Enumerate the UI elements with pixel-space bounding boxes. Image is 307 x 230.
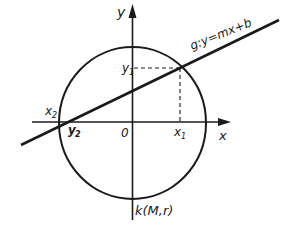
origin-label: 0 [121, 126, 129, 140]
y-axis-label: y [116, 4, 126, 20]
circle-line-diagram: y x 0 g:y=mx+b k(M,r) y 1 x 1 x 2 y 2 [0, 0, 307, 230]
line-g [21, 20, 279, 145]
circle-k-label: k(M,r) [135, 203, 173, 218]
y-axis [129, 4, 137, 220]
x2-label: x 2 [44, 104, 57, 120]
svg-text:2: 2 [75, 130, 81, 139]
y-axis-arrow-icon [129, 4, 137, 18]
svg-text:1: 1 [129, 68, 134, 77]
x-axis-label: x [218, 128, 227, 143]
y2-label: y 2 [68, 123, 81, 139]
x1-label: x 1 [173, 125, 186, 141]
x-axis-arrow-icon [218, 118, 231, 126]
svg-text:1: 1 [181, 132, 186, 141]
svg-text:2: 2 [52, 111, 57, 120]
